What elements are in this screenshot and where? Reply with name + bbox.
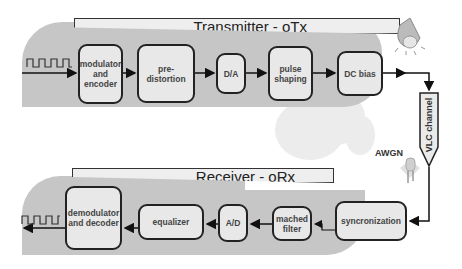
photodiode-led-icon	[400, 158, 420, 183]
input-square-wave-icon	[27, 59, 72, 67]
light-bulb-icon	[395, 18, 425, 55]
output-square-wave-icon	[22, 216, 60, 224]
connections-layer	[0, 0, 462, 269]
